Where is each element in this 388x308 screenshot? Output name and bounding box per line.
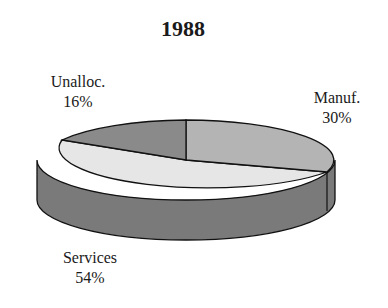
label-manuf: Manuf. 30% bbox=[304, 88, 370, 128]
label-services: Services 54% bbox=[50, 248, 130, 288]
label-unalloc: Unalloc. 16% bbox=[38, 72, 118, 112]
